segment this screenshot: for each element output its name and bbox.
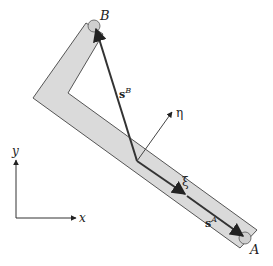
- point-a-label: A: [249, 242, 259, 257]
- global-y-label: y: [11, 144, 19, 158]
- point-b-label: B: [99, 8, 110, 23]
- global-x-label: x: [79, 211, 86, 225]
- rigid-body-diagram: B A sB sA ξ η x y: [0, 0, 273, 266]
- l-shaped-body: [33, 23, 257, 248]
- eta-axis-label: η: [176, 106, 183, 120]
- eta-axis-arrow: [137, 112, 172, 161]
- xi-axis-label: ξ: [182, 175, 189, 189]
- point-b-marker: [88, 20, 100, 32]
- vector-sB-label: sB: [119, 86, 131, 101]
